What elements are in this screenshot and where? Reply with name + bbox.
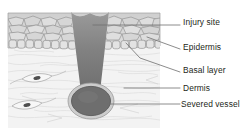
label-injury-site: Injury site bbox=[183, 18, 220, 26]
severed-vessel-region bbox=[68, 83, 114, 119]
label-dermis: Dermis bbox=[183, 84, 210, 92]
label-basal-layer: Basal layer bbox=[183, 66, 226, 74]
label-severed-vessel: Severed vessel bbox=[181, 100, 240, 108]
diagram-canvas: Injury site Epidermis Basal layer Dermis… bbox=[0, 0, 242, 128]
label-epidermis: Epidermis bbox=[183, 43, 221, 51]
